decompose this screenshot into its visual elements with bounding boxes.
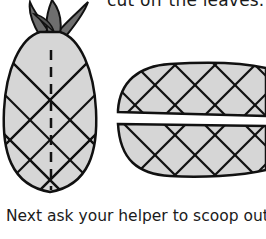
illustrations [0,0,266,239]
pineapple-halves [70,40,266,200]
leaves-icon [30,0,88,36]
whole-pineapple [0,0,200,239]
next-step-text: Next ask your helper to scoop out t [6,207,266,225]
bottom-half [118,124,266,177]
